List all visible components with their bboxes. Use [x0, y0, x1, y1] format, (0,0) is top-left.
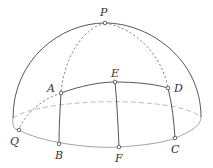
label-E: E [110, 67, 119, 80]
label-Q: Q [10, 135, 19, 148]
arc-A-Q [19, 93, 61, 130]
arc-D-C [168, 88, 175, 138]
dome-outline [13, 23, 201, 118]
hemisphere-diagram: P A E D Q B F C [0, 0, 213, 168]
meridian-P-A [61, 23, 105, 93]
label-B: B [54, 149, 63, 162]
point-C [173, 136, 177, 140]
point-A [59, 91, 63, 95]
point-F [117, 145, 121, 149]
point-E [113, 80, 117, 84]
point-B [57, 142, 61, 146]
label-F: F [114, 152, 123, 165]
point-D [166, 86, 170, 90]
arc-E-F [115, 82, 119, 147]
label-C: C [171, 143, 180, 156]
label-D: D [173, 82, 183, 95]
arc-A-B [59, 93, 61, 144]
label-P: P [99, 6, 108, 19]
point-P [103, 21, 107, 25]
label-A: A [46, 82, 55, 95]
point-Q [17, 128, 21, 132]
